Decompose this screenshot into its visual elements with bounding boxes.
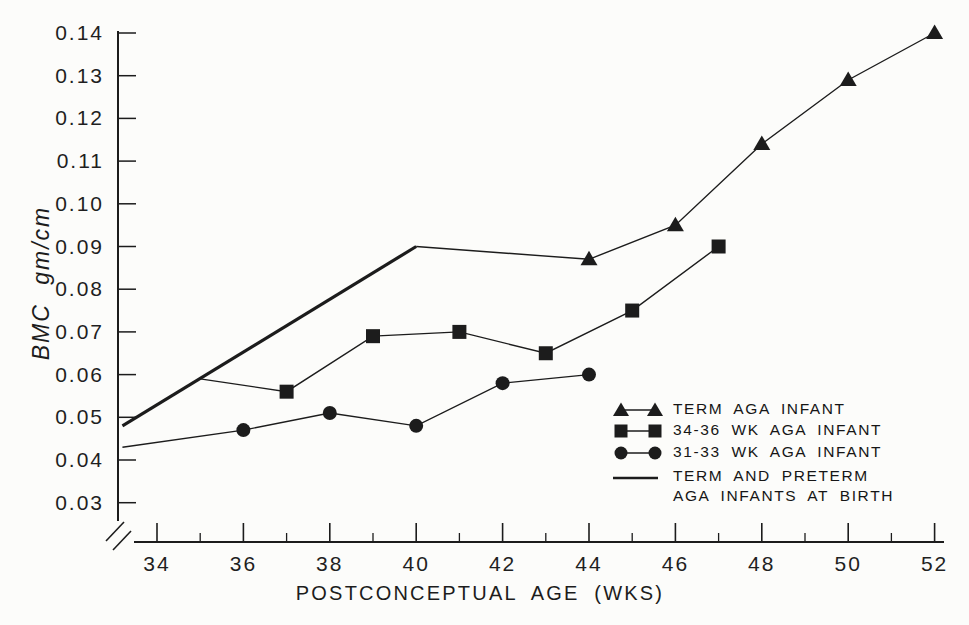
marker-square [625,304,639,318]
legend-item-31-33wk: 31-33 WK AGA INFANT [612,441,894,463]
y-tick-label: 0.13 [55,64,104,87]
marker-square [712,240,726,254]
marker-circle [582,368,596,382]
plot-area: 0.030.040.050.060.070.080.090.100.110.12… [0,0,969,625]
y-tick-label: 0.05 [55,405,104,428]
axis-break-slash [106,522,124,541]
bmc-growth-chart: 0.030.040.050.060.070.080.090.100.110.12… [0,0,969,625]
x-tick-label: 50 [835,552,862,575]
legend-label-line-1: TERM AND PRETERM [673,466,894,487]
y-tick-label: 0.03 [55,491,104,514]
legend-label-line-2: AGA INFANTS AT BIRTH [673,486,894,507]
y-tick-label: 0.12 [55,106,104,129]
legend-label: TERM AND PRETERM AGA INFANTS AT BIRTH [673,466,894,507]
x-tick-label: 48 [748,552,775,575]
marker-triangle [581,251,598,266]
legend-label: TERM AGA INFANT [673,400,846,418]
y-tick-label: 0.10 [55,192,104,215]
marker-square [366,329,380,343]
marker-square [280,385,294,399]
marker-circle [323,406,337,420]
x-tick-label: 52 [921,552,948,575]
marker-circle [496,376,510,390]
legend-line-marker-icon [612,467,664,485]
legend-square-marker-icon [612,421,664,439]
y-axis-title: BMC gm/cm [28,206,55,361]
marker-square [452,325,466,339]
series-line-circle [122,375,589,448]
marker-triangle [753,136,770,151]
legend-label: 31-33 WK AGA INFANT [673,443,882,461]
legend-circle-marker-icon [612,443,664,461]
x-tick-label: 44 [575,552,602,575]
y-tick-label: 0.14 [55,21,104,44]
marker-square [539,346,553,360]
x-tick-label: 42 [489,552,516,575]
y-tick-label: 0.06 [55,363,104,386]
axis-break-slash [113,531,131,550]
legend-label: 34-36 WK AGA INFANT [673,421,882,439]
y-tick-label: 0.04 [55,448,104,471]
x-tick-label: 34 [143,552,170,575]
marker-triangle [926,25,943,40]
y-tick-label: 0.07 [55,320,104,343]
x-tick-label: 46 [662,552,689,575]
x-tick-label: 38 [316,552,343,575]
y-tick-label: 0.11 [57,149,104,172]
marker-triangle [840,71,857,86]
legend-item-34-36wk: 34-36 WK AGA INFANT [612,420,894,442]
y-tick-label: 0.09 [55,235,104,258]
y-tick-label: 0.08 [55,277,104,300]
x-tick-label: 40 [403,552,430,575]
legend-triangle-marker-icon [612,400,664,418]
legend-item-birth-line: TERM AND PRETERM AGA INFANTS AT BIRTH [612,466,894,507]
legend: TERM AGA INFANT 34-36 WK AGA INFANT [612,398,894,507]
marker-circle [236,423,250,437]
x-axis-title: POSTCONCEPTUAL AGE (WKS) [180,582,780,605]
marker-circle [409,419,423,433]
x-tick-label: 36 [230,552,257,575]
legend-item-term-aga: TERM AGA INFANT [612,398,894,420]
series-line-square [200,247,718,392]
